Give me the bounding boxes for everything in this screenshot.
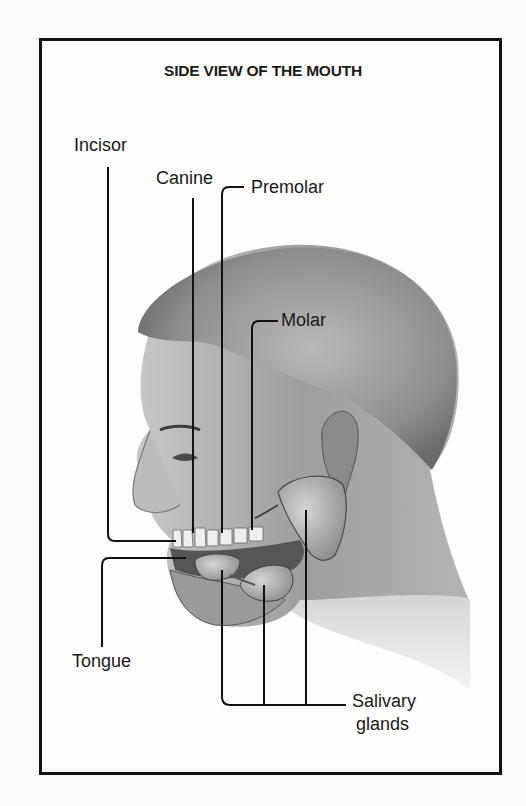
label-premolar: Premolar	[251, 177, 324, 197]
label-salivary: Salivary	[352, 691, 416, 711]
label-molar: Molar	[281, 310, 326, 330]
label-glands: glands	[356, 714, 409, 734]
diagram-title: SIDE VIEW OF THE MOUTH	[0, 62, 526, 80]
label-tongue: Tongue	[72, 651, 131, 671]
label-canine: Canine	[156, 168, 213, 188]
label-incisor: Incisor	[74, 135, 127, 155]
head-illustration	[0, 0, 526, 806]
